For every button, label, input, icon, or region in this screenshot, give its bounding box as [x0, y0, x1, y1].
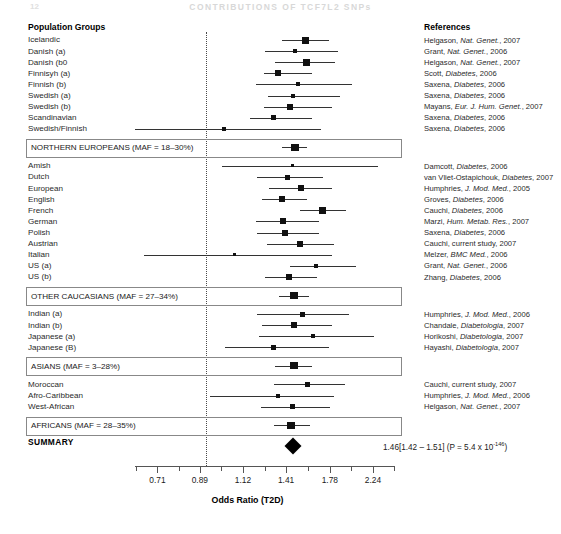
confidence-interval-line	[256, 221, 319, 222]
confidence-interval-line	[264, 73, 313, 74]
population-group-label: Swedish (b)	[28, 102, 71, 111]
effect-size-marker	[271, 345, 276, 350]
confidence-interval-line	[250, 118, 313, 119]
group-summary-marker	[287, 422, 295, 429]
column-header-references: References	[424, 22, 470, 32]
x-axis-title-text: Odds Ratio (T2D)	[212, 495, 284, 505]
forest-plot: Population Groups References IcelandicHe…	[0, 0, 561, 534]
null-reference-line	[206, 32, 207, 466]
population-group-label: Italian	[28, 250, 50, 259]
reference-citation: Humphries, J. Mod. Med., 2006	[424, 391, 530, 400]
reference-citation: Humphries, J. Mod. Med., 2005	[424, 184, 530, 193]
summary-p-exponent: -146	[493, 441, 504, 447]
reference-citation: Scott, Diabetes, 2006	[424, 69, 497, 78]
effect-size-marker	[287, 104, 293, 110]
axis-tick	[265, 466, 266, 471]
overall-summary-diamond	[284, 438, 301, 455]
confidence-interval-line	[265, 51, 338, 52]
reference-citation: Humphries, J. Mod. Med., 2006	[424, 310, 530, 319]
group-summary-marker	[290, 362, 298, 369]
confidence-interval-line	[268, 96, 340, 97]
reference-citation: Helgason, Nat. Genet., 2007	[424, 36, 520, 45]
effect-size-marker	[314, 264, 318, 268]
population-group-label: Japanese (B)	[28, 343, 76, 352]
effect-size-marker	[280, 218, 286, 224]
population-group-label: Indian (b)	[28, 321, 62, 330]
axis-tick-label: 2.24	[353, 475, 393, 485]
population-group-label: Icelandic	[28, 35, 60, 44]
population-group-label: Danish (a)	[28, 47, 65, 56]
effect-size-marker	[293, 49, 297, 53]
effect-size-marker	[233, 253, 236, 256]
summary-statistic: 1.46[1.42 – 1.51] (P = 5.4 x 10-146)	[383, 441, 507, 452]
axis-tick-label: 1.78	[310, 475, 350, 485]
axis-tick	[308, 466, 309, 471]
reference-citation: Melzer, BMC Med., 2006	[424, 250, 508, 259]
confidence-interval-line	[144, 255, 332, 256]
effect-size-marker	[319, 207, 326, 214]
confidence-interval-line	[256, 84, 352, 85]
axis-tick	[286, 466, 287, 473]
group-summary-label: ASIANS (MAF = 3–28%)	[31, 362, 120, 371]
reference-citation: Cauchi, current study, 2007	[424, 239, 516, 248]
reference-citation: Cauchi, current study, 2007	[424, 380, 516, 389]
population-group-label: Swedish (a)	[28, 91, 71, 100]
column-header-population-groups: Population Groups	[28, 22, 105, 32]
confidence-interval-line	[257, 233, 319, 234]
group-summary-marker	[290, 292, 298, 299]
confidence-interval-line	[262, 325, 332, 326]
population-group-label: Scandinavian	[28, 113, 77, 122]
confidence-interval-line	[264, 107, 332, 108]
effect-size-marker	[300, 312, 305, 317]
effect-size-marker	[303, 59, 310, 66]
population-group-label: English	[28, 195, 55, 204]
confidence-interval-line	[222, 166, 378, 167]
effect-size-marker	[291, 94, 295, 98]
reference-citation: Horikoshi, Diabetologia, 2007	[424, 332, 523, 341]
population-group-label: Indian (a)	[28, 309, 62, 318]
reference-citation: Groves, Diabetes, 2006	[424, 195, 504, 204]
population-group-label: US (b)	[28, 272, 51, 281]
axis-tick	[330, 466, 331, 473]
confidence-interval-line	[225, 347, 328, 348]
population-group-label: European	[28, 184, 63, 193]
effect-size-marker	[290, 404, 295, 409]
population-group-label: Danish (b0	[28, 58, 67, 67]
x-axis-title: Odds Ratio (T2D)	[0, 495, 561, 505]
axis-tick	[136, 466, 137, 471]
population-group-label: Afro-Caribbean	[28, 391, 83, 400]
axis-tick	[373, 466, 374, 473]
reference-citation: Saxena, Diabetes, 2006	[424, 91, 505, 100]
effect-size-marker	[276, 394, 280, 398]
axis-tick	[243, 466, 244, 473]
reference-citation: Hayashi, Diabetologia, 2007	[424, 343, 519, 352]
population-group-label: US (a)	[28, 261, 51, 270]
confidence-interval-line	[257, 177, 323, 178]
effect-size-marker	[305, 382, 310, 387]
population-group-label: Amish	[28, 161, 51, 170]
population-group-label: Japanese (a)	[28, 332, 75, 341]
reference-citation: Grant, Nat. Genet., 2006	[424, 261, 507, 270]
axis-tick	[179, 466, 180, 471]
confidence-interval-line	[261, 407, 330, 408]
effect-size-marker	[271, 115, 276, 120]
confidence-interval-line	[210, 396, 334, 397]
axis-tick-label: 1.41	[266, 475, 306, 485]
summary-label: SUMMARY	[28, 437, 74, 447]
reference-citation: Mayans, Eur. J. Hum. Genet., 2007	[424, 102, 543, 111]
effect-size-marker	[296, 82, 300, 86]
confidence-interval-line	[259, 336, 374, 337]
reference-citation: Saxena, Diabetes, 2006	[424, 113, 505, 122]
axis-tick	[200, 466, 201, 473]
group-summary-marker	[291, 144, 299, 151]
effect-size-marker	[297, 241, 303, 247]
population-group-label: German	[28, 217, 57, 226]
effect-size-marker	[279, 196, 285, 202]
reference-citation: Grant, Nat. Genet., 2006	[424, 47, 507, 56]
effect-size-marker	[285, 175, 290, 180]
effect-size-marker	[286, 274, 292, 280]
population-group-label: West-African	[28, 402, 74, 411]
population-group-label: Dutch	[28, 172, 49, 181]
population-group-label: French	[28, 206, 53, 215]
axis-tick	[221, 466, 222, 471]
